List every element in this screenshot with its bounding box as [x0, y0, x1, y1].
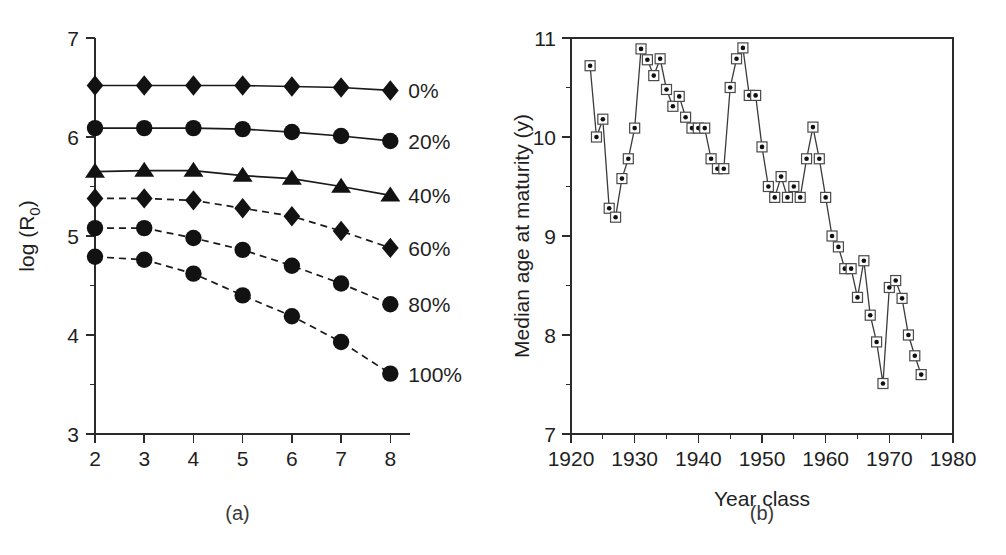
legend-label-60pct: 60%: [408, 237, 450, 260]
panel-a-xtick-label: 3: [138, 447, 150, 470]
panel-b-xtick-label: 1940: [675, 447, 722, 470]
data-point-marker: [234, 121, 250, 137]
data-point-marker: [85, 163, 105, 178]
data-point-dot: [588, 63, 593, 68]
data-point-dot: [785, 195, 790, 200]
panel-a-xtick-label: 4: [188, 447, 200, 470]
data-point-marker: [333, 275, 349, 291]
figure-container: 345672345678log (R0)0%20%40%60%80%100%(a…: [0, 0, 1006, 555]
legend-label-0pct: 0%: [408, 79, 438, 102]
data-point-dot: [702, 126, 707, 131]
data-point-marker: [87, 249, 103, 265]
data-point-marker: [234, 242, 250, 258]
series-20pct: [87, 120, 399, 149]
panel-a-ytick-label: 4: [67, 324, 79, 347]
data-point-dot: [811, 125, 816, 130]
panel-b-ytick-label: 8: [544, 324, 556, 347]
data-point-dot: [817, 156, 822, 161]
data-point-marker: [87, 220, 103, 236]
data-point-dot: [919, 372, 924, 377]
data-point-marker: [87, 188, 104, 208]
data-point-dot: [792, 184, 797, 189]
data-point-marker: [136, 188, 153, 208]
panel-a-xtick-label: 5: [237, 447, 249, 470]
panel-b-xtick-label: 1920: [548, 447, 595, 470]
panel-b-xtick-label: 1970: [866, 447, 913, 470]
data-point-dot: [607, 206, 612, 211]
data-point-marker: [282, 170, 302, 185]
data-point-marker: [134, 162, 154, 177]
data-point-dot: [874, 340, 879, 345]
data-point-dot: [906, 333, 911, 338]
panel-b-ytick-label: 10: [533, 126, 556, 149]
panel-a-ytick-label: 3: [67, 423, 79, 446]
data-point-marker: [382, 238, 399, 258]
data-point-marker: [284, 76, 301, 96]
data-point-dot: [658, 56, 663, 61]
panel-a-chart: 345672345678log (R0)0%20%40%60%80%100%(a…: [0, 0, 503, 555]
data-point-dot: [709, 156, 714, 161]
data-point-dot: [855, 295, 860, 300]
panel-a-xtick-label: 8: [384, 447, 396, 470]
data-point-dot: [594, 135, 599, 140]
data-point-dot: [862, 258, 867, 263]
data-point-dot: [722, 166, 727, 171]
data-point-dot: [893, 278, 898, 283]
data-point-marker: [333, 128, 349, 144]
data-point-dot: [645, 57, 650, 62]
data-point-marker: [333, 334, 349, 350]
svg-text:log (R0): log (R0): [15, 200, 43, 271]
data-point-marker: [183, 162, 203, 177]
data-point-marker: [284, 124, 300, 140]
data-point-dot: [664, 87, 669, 92]
panel-a-xtick-label: 7: [335, 447, 347, 470]
data-point-marker: [136, 220, 152, 236]
data-point-dot: [760, 145, 765, 150]
series-40pct: [85, 162, 400, 202]
data-point-marker: [333, 77, 350, 97]
data-point-dot: [626, 156, 631, 161]
panel-b-xtick-label: 1980: [930, 447, 977, 470]
data-point-dot: [651, 73, 656, 78]
data-point-dot: [639, 47, 644, 52]
panel-b-ytick-label: 11: [534, 27, 556, 50]
data-point-dot: [798, 195, 803, 200]
panel-b-ytick-label: 7: [544, 423, 556, 446]
data-point-marker: [136, 120, 152, 136]
data-point-marker: [333, 221, 350, 241]
data-point-dot: [804, 156, 809, 161]
panel-a-y-axis-title: log (R0): [15, 200, 43, 271]
data-point-dot: [836, 245, 841, 250]
data-point-dot: [913, 353, 918, 358]
data-point-marker: [284, 258, 300, 274]
panel-b-caption: (b): [750, 502, 774, 524]
data-point-marker: [136, 75, 153, 95]
data-point-marker: [234, 75, 251, 95]
data-point-marker: [234, 287, 250, 303]
panel-a: 345672345678log (R0)0%20%40%60%80%100%(a…: [0, 0, 503, 555]
panel-b-y-axis-title: Median age at maturity (y): [510, 114, 533, 358]
data-point-marker: [185, 120, 201, 136]
data-point-marker: [185, 190, 202, 210]
data-point-marker: [234, 198, 251, 218]
data-point-dot: [830, 234, 835, 239]
data-point-dot: [601, 117, 606, 122]
panel-a-ytick-label: 5: [67, 225, 79, 248]
data-point-dot: [881, 381, 886, 386]
panel-a-ytick-label: 6: [67, 126, 79, 149]
legend-label-100pct: 100%: [408, 363, 462, 386]
data-point-dot: [677, 94, 682, 99]
data-point-marker: [87, 120, 103, 136]
data-point-dot: [632, 126, 637, 131]
data-point-marker: [284, 206, 301, 226]
panel-b-xtick-label: 1950: [739, 447, 786, 470]
data-point-dot: [900, 296, 905, 301]
data-point-dot: [766, 184, 771, 189]
legend-label-80pct: 80%: [408, 293, 450, 316]
data-point-marker: [136, 252, 152, 268]
data-point-dot: [779, 174, 784, 179]
panel-b-chart: 78910111920193019401950196019701980Media…: [503, 0, 1006, 555]
data-point-dot: [728, 85, 733, 90]
svg-text:Median age at maturity (y): Median age at maturity (y): [510, 114, 533, 358]
panel-a-ytick-label: 7: [67, 27, 79, 50]
